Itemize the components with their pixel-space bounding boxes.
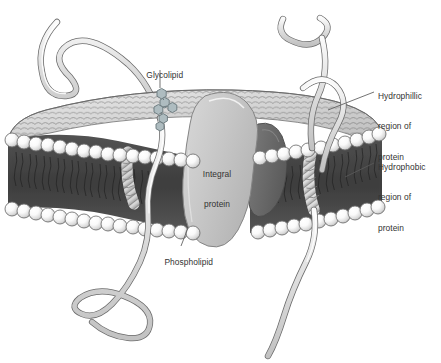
- label-phospholipid: Phospholipid: [141, 247, 227, 278]
- label-hydrophillic-line2: region of: [378, 121, 440, 131]
- label-phospholipid-text: Phospholipid: [164, 257, 213, 267]
- label-hydrophobic-line1: Hydrophobic: [378, 162, 440, 172]
- membrane-diagram-figure: Glycolipid Integral protein Phospholipid…: [0, 0, 441, 363]
- label-integral-protein: Integral protein: [190, 148, 244, 230]
- label-glycolipid: Glycolipid: [118, 60, 202, 91]
- label-hydrophobic-region: Hydrophobic region of protein: [378, 141, 440, 254]
- label-hydrophobic-line2: region of: [378, 192, 440, 202]
- label-integral-protein-line2: protein: [190, 199, 244, 209]
- label-glycolipid-text: Glycolipid: [146, 70, 183, 80]
- label-hydrophillic-line1: Hydrophillic: [378, 91, 440, 101]
- label-hydrophobic-line3: protein: [378, 223, 440, 233]
- label-integral-protein-line1: Integral: [190, 169, 244, 179]
